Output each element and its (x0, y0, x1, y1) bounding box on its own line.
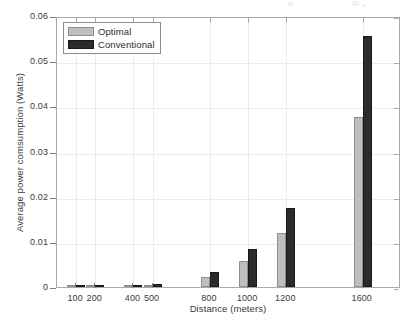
legend-item-conventional: Conventional (68, 39, 155, 50)
figure-canvas: Average power comsumption (Watts) Distan… (0, 0, 417, 322)
x-tick-mark-top (210, 18, 211, 23)
x-axis-label: Distance (meters) (56, 303, 400, 314)
legend-swatch-optimal (68, 27, 94, 36)
y-tick-mark (50, 153, 56, 154)
gridline-vertical (210, 18, 211, 287)
bar-conventional-1600 (363, 36, 372, 287)
x-tick-label: 500 (144, 293, 159, 303)
gridline-horizontal (57, 199, 399, 200)
y-tick-mark (50, 288, 56, 289)
y-tick-mark-right (394, 154, 399, 155)
y-tick-mark (50, 107, 56, 108)
y-tick-label: 0.03 (0, 147, 48, 157)
x-tick-mark-top (248, 18, 249, 23)
y-tick-label: 0 (0, 282, 48, 292)
legend-label-conventional: Conventional (98, 40, 155, 50)
x-tick-mark (285, 283, 286, 288)
bar-conventional-500 (153, 284, 162, 287)
gridline-horizontal (57, 154, 399, 155)
x-tick-mark-top (363, 18, 364, 23)
x-tick-label: 1000 (237, 293, 257, 303)
gridline-vertical (95, 18, 96, 287)
y-tick-mark (50, 17, 56, 18)
legend-label-optimal: Optimal (98, 27, 131, 37)
y-tick-mark (50, 62, 56, 63)
x-tick-mark (132, 283, 133, 288)
x-tick-label: 1200 (275, 293, 295, 303)
y-tick-mark (50, 198, 56, 199)
x-tick-label: 100 (67, 293, 82, 303)
x-tick-label: 1600 (352, 293, 372, 303)
y-tick-mark-right (394, 289, 399, 290)
x-tick-mark (94, 283, 95, 288)
y-tick-label: 0.04 (0, 101, 48, 111)
gridline-horizontal (57, 108, 399, 109)
x-tick-label: 800 (201, 293, 216, 303)
bar-conventional-1200 (286, 208, 295, 287)
chart-legend: Optimal Conventional (63, 22, 161, 54)
scan-artifact (352, 1, 359, 6)
plot-area (56, 17, 400, 288)
y-tick-mark-right (394, 63, 399, 64)
gridline-vertical (248, 18, 249, 287)
gridline-vertical (76, 18, 77, 287)
y-tick-label: 0.02 (0, 192, 48, 202)
x-tick-label: 400 (125, 293, 140, 303)
bar-conventional-200 (95, 285, 104, 287)
y-tick-mark-right (394, 199, 399, 200)
y-tick-label: 0.05 (0, 56, 48, 66)
gridline-vertical (133, 18, 134, 287)
scan-artifact (362, 4, 366, 7)
x-tick-mark (75, 283, 76, 288)
y-tick-label: 0.06 (0, 11, 48, 21)
bar-conventional-1000 (248, 249, 257, 287)
x-tick-mark (209, 283, 210, 288)
y-tick-mark-right (394, 18, 399, 19)
bar-optimal-1600 (354, 117, 363, 287)
scan-artifact (288, 2, 293, 6)
y-tick-mark (50, 243, 56, 244)
legend-item-optimal: Optimal (68, 26, 155, 37)
bar-conventional-800 (210, 272, 219, 287)
x-tick-label: 200 (87, 293, 102, 303)
gridline-horizontal (57, 244, 399, 245)
gridline-vertical (153, 18, 154, 287)
x-tick-mark (152, 283, 153, 288)
y-tick-mark-right (394, 108, 399, 109)
y-tick-mark-right (394, 244, 399, 245)
x-tick-mark-top (286, 18, 287, 23)
bar-conventional-400 (133, 285, 142, 287)
x-tick-mark (362, 283, 363, 288)
x-tick-mark (247, 283, 248, 288)
bar-optimal-1200 (277, 233, 286, 287)
legend-swatch-conventional (68, 40, 94, 49)
y-tick-label: 0.01 (0, 237, 48, 247)
gridline-horizontal (57, 63, 399, 64)
bar-conventional-100 (76, 285, 85, 287)
